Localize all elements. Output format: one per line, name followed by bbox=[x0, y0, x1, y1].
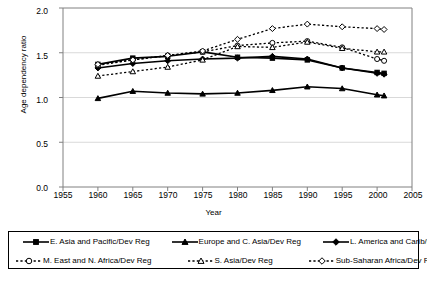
marker-open-diamond bbox=[319, 257, 325, 263]
marker-open-triangle bbox=[270, 45, 276, 50]
marker-filled-triangle bbox=[130, 88, 136, 93]
marker-open-diamond bbox=[374, 26, 380, 32]
legend-key-open-triangle bbox=[188, 255, 214, 267]
legend-item-s-asia[interactable]: S. Asia/Dev Reg bbox=[188, 255, 273, 267]
chart-container: Age dependency ratio Year 0.0 0.5 1.0 1.… bbox=[0, 0, 427, 283]
legend-label-0: E. Asia and Pacific/Dev Reg bbox=[50, 237, 150, 246]
legend: E. Asia and Pacific/Dev Reg Europe and C… bbox=[8, 231, 419, 269]
marker-open-diamond bbox=[339, 24, 345, 30]
marker-filled-triangle bbox=[270, 88, 276, 93]
legend-label-5: Sub-Saharan Africa/Dev Reg bbox=[336, 256, 427, 265]
series-5 bbox=[95, 21, 387, 67]
marker-open-diamond bbox=[381, 27, 387, 33]
marker-open-triangle bbox=[165, 64, 171, 69]
legend-key-filled-diamond bbox=[323, 236, 349, 248]
marker-open-circle bbox=[382, 58, 387, 63]
marker-open-diamond bbox=[269, 26, 275, 32]
legend-key-open-circle bbox=[16, 255, 42, 267]
legend-label-3: M. East and N. Africa/Dev Reg bbox=[43, 256, 152, 265]
marker-filled-square bbox=[34, 239, 39, 244]
legend-label-1: Europe and C. Asia/Dev Reg bbox=[199, 237, 301, 246]
marker-open-triangle bbox=[381, 49, 387, 54]
marker-open-triangle bbox=[374, 49, 380, 54]
legend-key-open-diamond bbox=[309, 255, 335, 267]
marker-filled-diamond bbox=[333, 238, 339, 244]
legend-key-filled-triangle bbox=[172, 236, 198, 248]
legend-item-sub-saharan-africa[interactable]: Sub-Saharan Africa/Dev Reg bbox=[309, 255, 427, 267]
marker-filled-triangle bbox=[381, 93, 387, 98]
marker-open-triangle bbox=[95, 73, 101, 78]
marker-open-diamond bbox=[304, 21, 310, 27]
legend-label-4: S. Asia/Dev Reg bbox=[215, 256, 273, 265]
legend-label-2: L. America and Carib/Dev Reg bbox=[350, 237, 427, 246]
legend-item-europe-and-c-asia[interactable]: Europe and C. Asia/Dev Reg bbox=[172, 236, 301, 248]
marker-filled-triangle bbox=[165, 90, 171, 95]
marker-filled-triangle bbox=[305, 84, 311, 89]
marker-open-circle bbox=[375, 56, 380, 61]
marker-open-triangle bbox=[130, 69, 136, 74]
legend-item-l-america-and-carib[interactable]: L. America and Carib/Dev Reg bbox=[323, 236, 427, 248]
marker-open-diamond bbox=[235, 36, 241, 42]
marker-filled-triangle bbox=[235, 90, 241, 95]
marker-filled-triangle bbox=[200, 91, 206, 96]
legend-key-filled-square bbox=[23, 236, 49, 248]
marker-filled-triangle bbox=[95, 96, 101, 101]
marker-filled-triangle bbox=[339, 86, 345, 91]
marker-open-circle bbox=[26, 258, 32, 264]
legend-item-m-east-and-n-africa[interactable]: M. East and N. Africa/Dev Reg bbox=[16, 255, 152, 267]
legend-item-e-asia-and-pacific[interactable]: E. Asia and Pacific/Dev Reg bbox=[23, 236, 150, 248]
series-1 bbox=[95, 84, 387, 101]
marker-filled-triangle bbox=[374, 92, 380, 97]
